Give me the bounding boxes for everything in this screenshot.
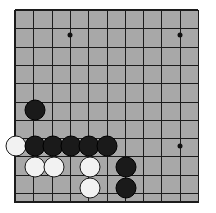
star-point-right xyxy=(178,144,183,149)
white-stone-5[interactable] xyxy=(80,178,101,199)
grid-line-horizontal-9 xyxy=(15,175,198,176)
grid-line-vertical-10 xyxy=(198,10,199,203)
grid-line-horizontal-3 xyxy=(15,65,198,66)
grid-line-horizontal-1 xyxy=(15,28,198,29)
white-stone-3[interactable] xyxy=(44,157,65,178)
white-stone-2[interactable] xyxy=(25,157,46,178)
grid-line-horizontal-8 xyxy=(15,156,198,157)
grid-line-horizontal-6 xyxy=(15,120,198,121)
star-point-upper-left xyxy=(68,33,73,38)
star-point-upper-right xyxy=(178,33,183,38)
white-stone-1[interactable] xyxy=(6,136,27,157)
black-stone-6[interactable] xyxy=(97,136,118,157)
grid-line-horizontal-4 xyxy=(15,83,198,84)
black-stone-8[interactable] xyxy=(116,178,137,199)
black-stone-7[interactable] xyxy=(116,157,137,178)
grid-line-horizontal-2 xyxy=(15,47,198,48)
grid-line-bottom-edge xyxy=(15,201,198,203)
grid-line-horizontal-0 xyxy=(15,9,198,11)
white-stone-4[interactable] xyxy=(80,157,101,178)
grid-line-horizontal-10 xyxy=(15,193,198,194)
black-stone-1[interactable] xyxy=(25,100,46,121)
go-board-screenshot xyxy=(0,0,216,213)
